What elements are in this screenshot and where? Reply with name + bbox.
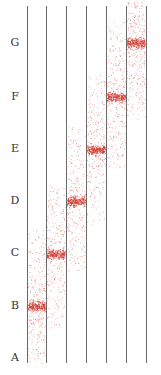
lane-line-7 (146, 6, 147, 363)
density-dots (0, 0, 161, 375)
lane-line-4 (86, 6, 87, 363)
lane-line-6 (126, 6, 127, 363)
lane-line-2 (46, 6, 47, 363)
lane-line-3 (66, 6, 67, 363)
lane-line-1 (27, 6, 28, 363)
lane-line-5 (106, 6, 107, 363)
density-diagram: G F E D C B A (0, 0, 161, 375)
